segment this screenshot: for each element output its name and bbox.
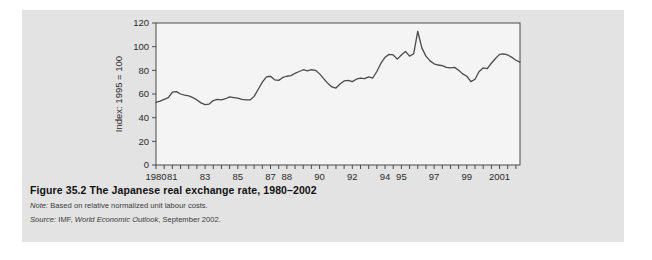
x-tick-label: 87 bbox=[265, 171, 276, 182]
x-tick-label: 2001 bbox=[489, 171, 510, 182]
source-pre: IMF, bbox=[56, 215, 75, 224]
x-axis-minor-ticks bbox=[156, 165, 516, 169]
y-tick-label: 0 bbox=[144, 159, 149, 170]
x-tick-label: 83 bbox=[200, 171, 211, 182]
x-tick-label: 92 bbox=[347, 171, 358, 182]
y-tick-label: 40 bbox=[138, 112, 149, 123]
y-axis-ticks: 020406080100120 bbox=[133, 17, 156, 170]
x-tick-label: 85 bbox=[233, 171, 244, 182]
x-tick-label: 95 bbox=[396, 171, 407, 182]
chart-plot-area: 020406080100120 198081838587889092949597… bbox=[22, 10, 624, 182]
line-chart: 020406080100120 198081838587889092949597… bbox=[22, 10, 624, 182]
caption-block: Figure 35.2 The Japanese real exchange r… bbox=[30, 184, 620, 229]
x-axis-tick-labels: 198081838587889092949597992001 bbox=[145, 171, 510, 182]
source-label: Source: bbox=[30, 215, 56, 224]
note-label: Note: bbox=[30, 201, 48, 210]
x-tick-label: 88 bbox=[282, 171, 293, 182]
y-tick-label: 100 bbox=[133, 41, 149, 52]
y-tick-label: 80 bbox=[138, 65, 149, 76]
x-tick-label: 97 bbox=[429, 171, 440, 182]
figure-note: Note: Based on relative normalized unit … bbox=[30, 201, 620, 210]
note-text: Based on relative normalized unit labour… bbox=[48, 201, 208, 210]
y-tick-label: 60 bbox=[138, 88, 149, 99]
y-axis-title: Index: 1995 = 100 bbox=[113, 56, 124, 132]
x-tick-label: 81 bbox=[167, 171, 178, 182]
figure-card: 020406080100120 198081838587889092949597… bbox=[22, 10, 624, 242]
plot-background bbox=[156, 23, 520, 165]
source-publication: World Economic Outlook bbox=[75, 215, 159, 224]
source-post: , September 2002. bbox=[158, 215, 220, 224]
x-tick-label: 94 bbox=[380, 171, 391, 182]
y-tick-label: 120 bbox=[133, 17, 149, 28]
x-tick-label: 90 bbox=[314, 171, 325, 182]
x-tick-label: 99 bbox=[462, 171, 473, 182]
y-tick-label: 20 bbox=[138, 136, 149, 147]
x-tick-label: 1980 bbox=[145, 171, 166, 182]
figure-title: Figure 35.2 The Japanese real exchange r… bbox=[30, 184, 620, 196]
figure-source: Source: IMF, World Economic Outlook, Sep… bbox=[30, 215, 620, 224]
